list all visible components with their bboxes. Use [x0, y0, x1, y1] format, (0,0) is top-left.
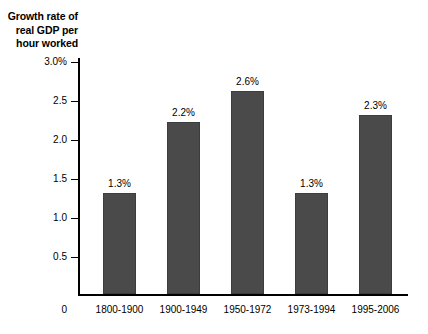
bar-value-1950-1972: 2.6%	[224, 77, 271, 87]
y-tick-mark-2.0	[71, 140, 78, 142]
bar-value-1800-1900: 1.3%	[96, 179, 143, 189]
bar-chart: Growth rate of real GDP per hour worked …	[0, 0, 428, 334]
bar-1973-1994	[295, 193, 328, 294]
x-tick-label-1973-1994: 1973-1994	[275, 305, 348, 315]
y-tick-label-2.0: 2.0	[5, 135, 67, 145]
y-tick-label-0.5: 0.5	[5, 252, 67, 262]
x-tick-label-1900-1949: 1900-1949	[147, 305, 220, 315]
y-tick-mark-1.0	[71, 218, 78, 220]
chart-axis-title-line-3: hour worked	[0, 37, 78, 51]
bar-1950-1972	[231, 91, 264, 294]
chart-axis-title-line-1: Growth rate of	[0, 10, 78, 24]
x-axis-line	[78, 294, 408, 296]
y-tick-label-3.0: 3.0%	[5, 57, 67, 67]
x-tick-label-1800-1900: 1800-1900	[83, 305, 156, 315]
chart-axis-title: Growth rate of real GDP per hour worked	[0, 10, 78, 51]
bar-value-1995-2006: 2.3%	[352, 101, 399, 111]
y-tick-mark-0.5	[71, 257, 78, 259]
y-tick-mark-2.5	[71, 101, 78, 103]
chart-axis-title-line-2: real GDP per	[0, 24, 78, 38]
y-tick-label-1.0: 1.0	[5, 213, 67, 223]
y-tick-mark-3.0	[71, 62, 78, 64]
bar-value-1973-1994: 1.3%	[288, 179, 335, 189]
x-tick-label-1950-1972: 1950-1972	[211, 305, 284, 315]
bar-1995-2006	[359, 115, 392, 294]
bar-value-1900-1949: 2.2%	[160, 108, 207, 118]
bar-1900-1949	[167, 122, 200, 294]
bar-1800-1900	[103, 193, 136, 294]
x-tick-label-1995-2006: 1995-2006	[339, 305, 412, 315]
y-tick-label-2.5: 2.5	[5, 96, 67, 106]
y-tick-label-1.5: 1.5	[5, 174, 67, 184]
y-tick-mark-1.5	[71, 179, 78, 181]
y-axis-line	[78, 58, 80, 296]
y-tick-label-0: 0	[5, 305, 67, 315]
